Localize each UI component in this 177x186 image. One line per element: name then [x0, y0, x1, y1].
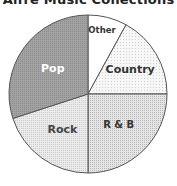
slice-label: Rock [48, 123, 79, 136]
pie-chart: OtherCountryR & BRockPop [0, 0, 177, 186]
slice-label: R & B [103, 119, 134, 130]
pie-slice-r-b [88, 94, 167, 173]
slice-label: Pop [41, 62, 65, 75]
pie-slices [9, 15, 167, 173]
slice-label: Other [88, 25, 116, 35]
slice-label: Country [106, 63, 155, 76]
